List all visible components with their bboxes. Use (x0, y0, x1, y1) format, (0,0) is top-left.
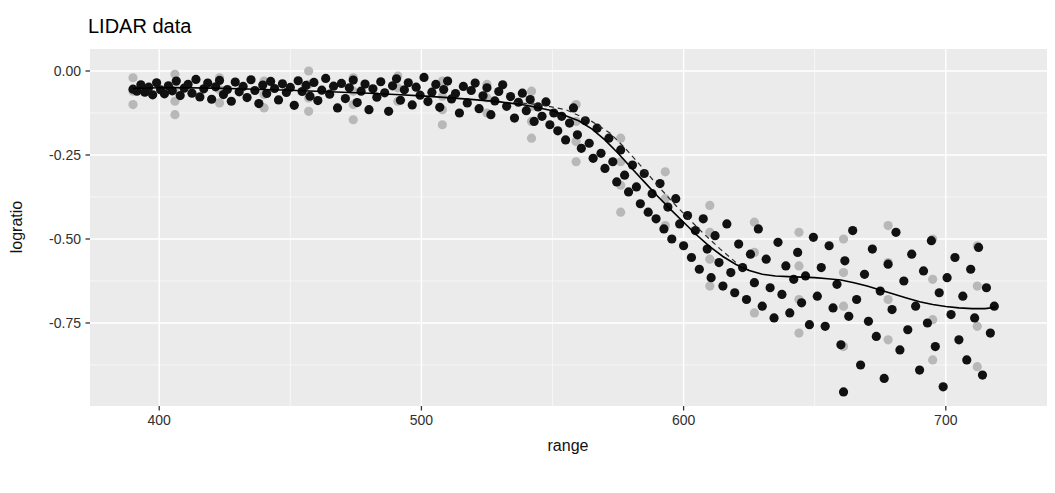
data-point (973, 322, 982, 331)
data-point (589, 154, 598, 163)
data-point (872, 332, 881, 341)
data-point (304, 107, 313, 116)
data-point (223, 85, 232, 94)
data-point (408, 100, 417, 109)
data-point (856, 360, 865, 369)
data-point (860, 270, 869, 279)
data-point (572, 157, 581, 166)
data-point (290, 101, 299, 110)
data-point (839, 302, 848, 311)
data-point (821, 322, 830, 331)
data-point (928, 355, 937, 364)
y-tick-label: -0.25 (49, 147, 81, 163)
x-axis-tick-labels: 400500600700 (148, 412, 958, 428)
data-point (616, 134, 625, 143)
data-point (537, 112, 546, 121)
data-point (148, 90, 157, 99)
data-point (911, 302, 920, 311)
data-point (384, 107, 393, 116)
data-point (474, 104, 483, 113)
data-point (585, 139, 594, 148)
data-point (687, 253, 696, 262)
data-point (644, 208, 653, 217)
data-point (419, 73, 428, 82)
data-point (498, 80, 507, 89)
data-point (714, 258, 723, 267)
data-point (659, 224, 668, 233)
data-point (762, 255, 771, 264)
data-point (797, 298, 806, 307)
data-point (527, 134, 536, 143)
data-point (187, 89, 196, 98)
data-point (250, 86, 259, 95)
data-point (304, 66, 313, 75)
data-point (258, 81, 267, 90)
data-point (392, 74, 401, 83)
data-point (809, 233, 818, 242)
data-point (608, 157, 617, 166)
data-point (376, 77, 385, 86)
data-point (722, 219, 731, 228)
data-point (337, 79, 346, 88)
data-point (242, 93, 251, 102)
data-point (895, 345, 904, 354)
data-point (530, 117, 539, 126)
data-point (227, 97, 236, 106)
plot-title: LIDAR data (88, 15, 192, 37)
data-point (848, 226, 857, 235)
data-point (813, 292, 822, 301)
data-point (817, 263, 826, 272)
data-point (506, 92, 515, 101)
lidar-chart-figure: 400500600700 0.00-0.25-0.50-0.75 LIDAR d… (0, 0, 1055, 493)
data-point (294, 76, 303, 85)
data-point (705, 281, 714, 290)
data-point (990, 302, 999, 311)
data-point (439, 85, 448, 94)
scatterplot-canvas: 400500600700 0.00-0.25-0.50-0.75 LIDAR d… (0, 0, 1055, 493)
data-point (624, 187, 633, 196)
data-point (734, 239, 743, 248)
data-point (301, 81, 310, 90)
data-point (527, 87, 536, 96)
data-point (431, 80, 440, 89)
data-point (661, 194, 670, 203)
data-point (943, 273, 952, 282)
data-point (828, 303, 837, 312)
data-point (160, 89, 169, 98)
data-point (482, 83, 491, 92)
data-point (404, 78, 413, 87)
data-point (750, 308, 759, 317)
data-point (438, 120, 447, 129)
data-point (839, 234, 848, 243)
data-point (651, 214, 660, 223)
data-point (451, 89, 460, 98)
data-point (703, 244, 712, 253)
data-point (246, 75, 255, 84)
data-point (486, 110, 495, 119)
data-point (545, 120, 554, 129)
data-point (781, 261, 790, 270)
data-point (832, 280, 841, 289)
data-point (884, 260, 893, 269)
data-point (758, 302, 767, 311)
data-point (750, 278, 759, 287)
x-axis-title: range (548, 437, 589, 454)
data-point (958, 292, 967, 301)
y-axis-tick-labels: 0.00-0.25-0.50-0.75 (49, 63, 81, 331)
data-point (793, 248, 802, 257)
data-point (309, 78, 318, 87)
data-point (884, 221, 893, 230)
data-point (215, 98, 224, 107)
data-point (616, 208, 625, 217)
data-point (423, 97, 432, 106)
y-tick-label: 0.00 (54, 63, 81, 79)
data-point (973, 281, 982, 290)
data-point (939, 382, 948, 391)
data-point (978, 370, 987, 379)
data-point (380, 88, 389, 97)
data-point (785, 308, 794, 317)
data-point (636, 199, 645, 208)
data-point (412, 83, 421, 92)
data-point (825, 241, 834, 250)
data-point (839, 268, 848, 277)
